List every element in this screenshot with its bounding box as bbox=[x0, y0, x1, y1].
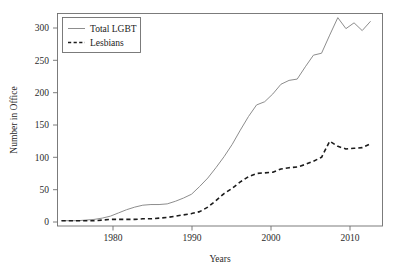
y-tick-label-100: 100 bbox=[35, 153, 50, 163]
y-axis-title: Number in Office bbox=[9, 86, 19, 153]
x-tick-label-2000: 2000 bbox=[262, 233, 281, 243]
x-axis-title: Years bbox=[209, 254, 231, 264]
y-tick-label-150: 150 bbox=[35, 120, 50, 130]
y-tick-label-250: 250 bbox=[35, 56, 50, 66]
line-chart-svg: 0 50 100 150 200 250 300 1980 1990 2000 … bbox=[0, 0, 398, 279]
y-tick-label-50: 50 bbox=[40, 185, 50, 195]
y-tick-label-200: 200 bbox=[35, 88, 50, 98]
chart-legend: Total LGBT Lesbians bbox=[63, 18, 141, 53]
x-tick-label-2010: 2010 bbox=[341, 233, 360, 243]
y-tick-label-300: 300 bbox=[35, 23, 50, 33]
x-tick-label-1980: 1980 bbox=[104, 233, 123, 243]
legend-label-total-lgbt: Total LGBT bbox=[90, 24, 137, 34]
legend-label-lesbians: Lesbians bbox=[90, 38, 124, 48]
y-tick-label-0: 0 bbox=[44, 217, 49, 227]
x-tick-label-1990: 1990 bbox=[183, 233, 202, 243]
chart-figure: 0 50 100 150 200 250 300 1980 1990 2000 … bbox=[0, 0, 398, 279]
